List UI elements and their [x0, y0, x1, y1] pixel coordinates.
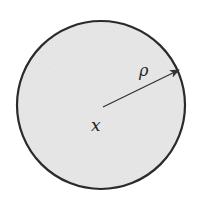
center-label: x — [91, 115, 101, 135]
ball-diagram: ρ x — [0, 0, 202, 205]
ball-disk — [17, 21, 185, 189]
radius-label: ρ — [138, 61, 149, 80]
